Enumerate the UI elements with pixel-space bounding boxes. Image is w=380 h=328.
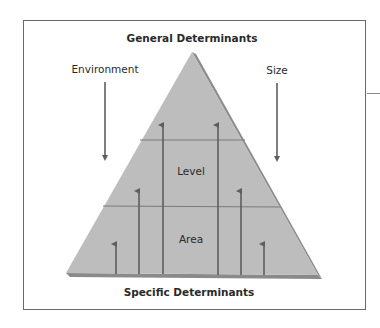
- tier-label-area: Area: [179, 234, 203, 245]
- tier-label-level: Level: [177, 166, 205, 177]
- environment-label: Environment: [71, 64, 138, 75]
- pyramid-diagram: [0, 0, 380, 328]
- specific-determinants-label: Specific Determinants: [124, 287, 255, 298]
- general-determinants-label: General Determinants: [127, 33, 258, 44]
- size-label: Size: [266, 65, 288, 76]
